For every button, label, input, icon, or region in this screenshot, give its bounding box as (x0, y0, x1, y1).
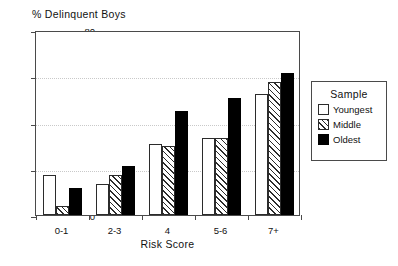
x-axis-tick-label: 0-1 (55, 225, 69, 236)
y-axis-tick (31, 125, 36, 126)
y-axis-tick (31, 78, 36, 79)
bar-middle-5-6 (215, 138, 228, 215)
legend-entries: YoungestMiddleOldest (312, 104, 386, 145)
x-axis-tick (301, 215, 302, 220)
legend-item-oldest: Oldest (318, 134, 386, 145)
page-title: % Delinquent Boys (32, 8, 126, 20)
bar-oldest-7plus (281, 73, 294, 215)
bar-oldest-2-3 (122, 166, 135, 215)
x-axis-tick-label: 5-6 (214, 225, 228, 236)
bar-oldest-4 (175, 111, 188, 215)
hatched-square-icon (318, 119, 329, 130)
y-axis-tick (31, 171, 36, 172)
legend: Sample YoungestMiddleOldest (311, 81, 387, 161)
bar-youngest-4 (149, 144, 162, 215)
white-square-icon (318, 104, 329, 115)
plot-area (35, 31, 300, 216)
y-axis-tick (31, 32, 36, 33)
x-axis-tick-label: 7+ (268, 225, 279, 236)
x-axis-tick-label: 4 (165, 225, 170, 236)
x-axis-tick-label: 2-3 (108, 225, 122, 236)
bar-middle-0-1 (56, 206, 69, 215)
bar-youngest-2-3 (96, 184, 109, 215)
black-square-icon (318, 134, 329, 145)
x-axis-title: Risk Score (35, 238, 300, 250)
gridline (36, 78, 299, 79)
legend-title: Sample (312, 88, 386, 100)
bar-youngest-5-6 (202, 138, 215, 215)
x-axis-tick (195, 215, 196, 220)
y-axis-tick (31, 217, 36, 218)
legend-item-middle: Middle (318, 119, 386, 130)
bar-oldest-0-1 (69, 188, 82, 215)
legend-item-label: Middle (333, 119, 361, 130)
bar-youngest-7plus (255, 94, 268, 215)
plot-inner (36, 32, 299, 215)
x-axis-tick (36, 215, 37, 220)
bar-middle-4 (162, 146, 175, 215)
legend-item-youngest: Youngest (318, 104, 386, 115)
x-axis-tick (248, 215, 249, 220)
chart-figure: % Delinquent Boys 020406080 0-12-345-67+… (0, 0, 398, 266)
bar-youngest-0-1 (43, 175, 56, 215)
bar-middle-2-3 (109, 175, 122, 215)
bar-middle-7plus (268, 82, 281, 215)
x-axis-tick (142, 215, 143, 220)
legend-item-label: Oldest (333, 134, 360, 145)
x-axis-tick (89, 215, 90, 220)
legend-item-label: Youngest (333, 104, 372, 115)
bar-oldest-5-6 (228, 98, 241, 215)
